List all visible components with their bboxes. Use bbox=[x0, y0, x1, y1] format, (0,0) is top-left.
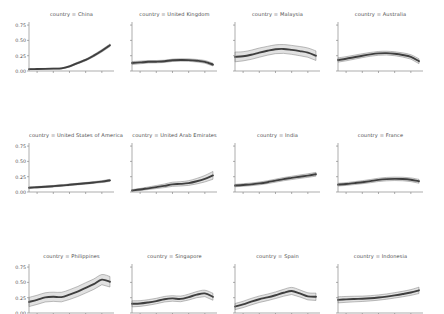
plot-area bbox=[29, 264, 114, 313]
y-tick-label: 0.00 bbox=[15, 69, 26, 74]
facet-panel-india: country = India bbox=[235, 143, 320, 192]
plot-area bbox=[235, 22, 320, 71]
facet-panel-france: country = France bbox=[338, 143, 423, 192]
y-tick-label: 0.25 bbox=[15, 295, 26, 300]
facet-title: country = China bbox=[29, 11, 114, 17]
y-tick-label: 0.25 bbox=[15, 174, 26, 179]
facet-grid-figure: country = China0.000.250.500.75country =… bbox=[0, 0, 444, 314]
axis-spines bbox=[29, 22, 114, 71]
axis-spines bbox=[338, 264, 423, 313]
plot-area bbox=[235, 264, 320, 313]
facet-panel-spain: country = Spain bbox=[235, 264, 320, 313]
facet-title: country = Malaysia bbox=[235, 11, 320, 17]
facet-title: country = Indonesia bbox=[338, 253, 423, 259]
axis-spines bbox=[29, 264, 114, 313]
plot-area bbox=[338, 264, 423, 313]
facet-panel-malaysia: country = Malaysia bbox=[235, 22, 320, 71]
plot-area bbox=[132, 143, 217, 192]
plot-area bbox=[29, 143, 114, 192]
y-axis-tick-labels: 0.000.250.500.75 bbox=[7, 22, 29, 71]
y-tick-label: 0.75 bbox=[15, 265, 26, 270]
facet-panel-singapore: country = Singapore bbox=[132, 264, 217, 313]
facet-title: country = India bbox=[235, 132, 320, 138]
plot-area bbox=[235, 143, 320, 192]
y-axis-tick-labels: 0.000.250.500.75 bbox=[7, 143, 29, 192]
y-tick-label: 0.75 bbox=[15, 144, 26, 149]
facet-title: country = United States of America bbox=[29, 132, 114, 138]
facet-title: country = Australia bbox=[338, 11, 423, 17]
plot-area bbox=[132, 22, 217, 71]
facet-title: country = Singapore bbox=[132, 253, 217, 259]
facet-panel-indonesia: country = Indonesia bbox=[338, 264, 423, 313]
y-tick-label: 0.00 bbox=[15, 190, 26, 195]
confidence-band bbox=[29, 274, 110, 306]
facet-panel-united-arab-emirates: country = United Arab Emirates bbox=[132, 143, 217, 192]
axis-spines bbox=[132, 22, 217, 71]
mean-line bbox=[29, 180, 110, 187]
facet-title: country = United Kingdom bbox=[132, 11, 217, 17]
axis-spines bbox=[338, 22, 423, 71]
y-axis-tick-labels: 0.000.250.500.75 bbox=[7, 264, 29, 313]
y-tick-label: 0.75 bbox=[15, 23, 26, 28]
plot-area bbox=[338, 143, 423, 192]
confidence-band bbox=[338, 287, 419, 303]
facet-panel-united-states-of-america: country = United States of America0.000.… bbox=[29, 143, 114, 192]
plot-area bbox=[338, 22, 423, 71]
plot-area bbox=[29, 22, 114, 71]
mean-line bbox=[29, 45, 110, 69]
facet-panel-united-kingdom: country = United Kingdom bbox=[132, 22, 217, 71]
y-tick-label: 0.50 bbox=[15, 159, 26, 164]
facet-title: country = Philippines bbox=[29, 253, 114, 259]
confidence-band bbox=[235, 45, 316, 62]
y-tick-label: 0.00 bbox=[15, 311, 26, 314]
y-tick-label: 0.50 bbox=[15, 280, 26, 285]
facet-panel-china: country = China0.000.250.500.75 bbox=[29, 22, 114, 71]
mean-line bbox=[235, 174, 316, 185]
facet-title: country = France bbox=[338, 132, 423, 138]
y-tick-label: 0.50 bbox=[15, 38, 26, 43]
plot-area bbox=[132, 264, 217, 313]
facet-panel-philippines: country = Philippines0.000.250.500.75 bbox=[29, 264, 114, 313]
y-tick-label: 0.25 bbox=[15, 53, 26, 58]
facet-panel-australia: country = Australia bbox=[338, 22, 423, 71]
facet-title: country = United Arab Emirates bbox=[132, 132, 217, 138]
facet-title: country = Spain bbox=[235, 253, 320, 259]
confidence-band bbox=[235, 287, 316, 309]
